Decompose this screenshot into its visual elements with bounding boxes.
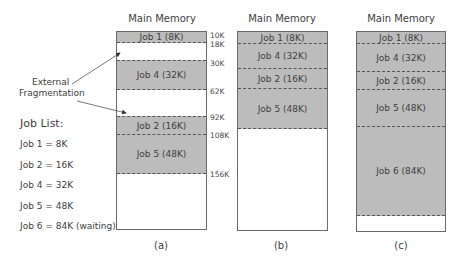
job-list-item: Job 4 = 32K <box>20 180 73 190</box>
job-list-heading: Job List: <box>20 117 63 130</box>
job-list-item: Job 5 = 48K <box>20 201 73 211</box>
job-list-item: Job 2 = 16K <box>20 160 73 170</box>
job-list-item: Job 6 = 84K (waiting) <box>20 221 116 231</box>
job-list-item: Job 1 = 8K <box>20 139 67 149</box>
